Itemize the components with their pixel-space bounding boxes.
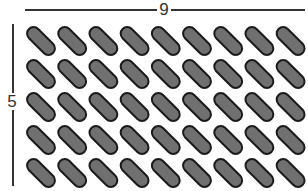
- pill: [180, 123, 213, 156]
- pill: [274, 123, 307, 156]
- pill: [87, 123, 120, 156]
- pill: [24, 123, 57, 156]
- pill: [118, 123, 151, 156]
- pill: [274, 57, 307, 90]
- pill: [180, 24, 213, 57]
- pill: [180, 156, 213, 189]
- pill: [180, 57, 213, 90]
- pill: [87, 90, 120, 123]
- pill: [149, 24, 182, 57]
- pill: [180, 90, 213, 123]
- pill: [212, 90, 245, 123]
- pill-array: [0, 0, 308, 191]
- pill: [24, 24, 57, 57]
- pill: [56, 24, 89, 57]
- pill: [24, 57, 57, 90]
- pill: [118, 24, 151, 57]
- pill: [56, 123, 89, 156]
- pill: [118, 156, 151, 189]
- pill: [87, 24, 120, 57]
- pill: [243, 57, 276, 90]
- pill: [56, 57, 89, 90]
- pill: [212, 123, 245, 156]
- pill: [243, 24, 276, 57]
- pill: [243, 90, 276, 123]
- pill: [212, 57, 245, 90]
- pill: [274, 156, 307, 189]
- pill: [149, 90, 182, 123]
- pill: [243, 123, 276, 156]
- pill: [118, 90, 151, 123]
- pill: [149, 156, 182, 189]
- pill: [212, 24, 245, 57]
- pill: [274, 90, 307, 123]
- pill: [212, 156, 245, 189]
- pill: [87, 156, 120, 189]
- pill: [118, 57, 151, 90]
- pill: [149, 57, 182, 90]
- pill: [149, 123, 182, 156]
- pill: [24, 156, 57, 189]
- pill: [274, 24, 307, 57]
- pill: [24, 90, 57, 123]
- pill: [87, 57, 120, 90]
- pill: [56, 156, 89, 189]
- pill: [243, 156, 276, 189]
- pill: [56, 90, 89, 123]
